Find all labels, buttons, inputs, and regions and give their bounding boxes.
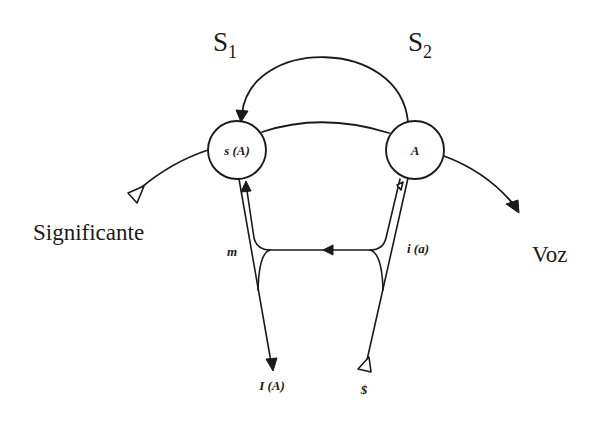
open-triangle-left-icon [128,186,144,203]
line-barredS-to-A [367,178,408,360]
upper-arc-A-to-sA [242,57,408,122]
lower-left-junction [258,250,270,290]
signifier-chain-left [142,150,208,187]
node-s-of-A-label: s (A) [223,143,250,158]
signifier-chain-middle [262,122,389,133]
graph-of-desire-diagram: S1 S2 s (A) A m i (a) I (A) $ Significan… [0,0,599,423]
label-s2: S2 [408,27,432,62]
arrowhead-left-icon [323,245,333,255]
lower-right-junction [370,250,383,290]
edge-label-m: m [227,244,237,259]
node-A-label: A [410,143,420,158]
arrowhead-voz-icon [506,200,519,213]
line-sA-to-IA [239,179,271,362]
inner-loop-path [246,179,400,250]
edge-label-i-a: i (a) [407,241,429,256]
edge-label-I-A: I (A) [258,378,285,393]
arrowhead-IA-icon [266,358,277,371]
side-label-voz: Voz [532,242,567,267]
edge-label-barred-s: $ [360,382,368,397]
side-label-significante: Significante [33,220,144,245]
open-triangle-barredS-icon [358,357,371,372]
arrowhead-up-sA-icon [241,181,251,192]
signifier-chain-right [444,156,514,205]
label-s1: S1 [213,27,237,62]
